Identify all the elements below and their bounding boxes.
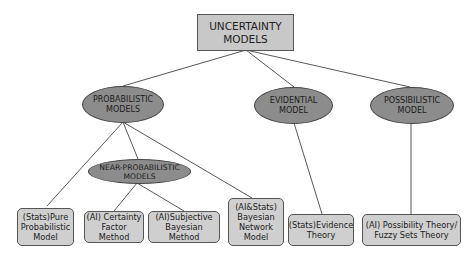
leaf-subjective-bayesian-method: (AI)Subjective Bayesian Method: [148, 211, 220, 243]
node-evidential-model: EVIDENTIAL MODEL: [254, 87, 333, 124]
leaf-bayesian-network-model: (AI&Stats) Bayesian Network Model: [228, 198, 284, 246]
leaf-possibility-fuzzy-sets-theory: (AI) Possibility Theory/ Fuzzy Sets Theo…: [362, 214, 461, 246]
edge-probabilistic-near: [123, 122, 138, 159]
leaf-evidence-theory: (Stats)Evidence Theory: [288, 214, 354, 246]
node-near-probabilistic-models: NEAR-PROBABILISTIC MODELS: [88, 159, 191, 184]
possibilistic-label: POSSIBILISTIC MODEL: [384, 96, 440, 116]
evidence-theory-label: (Stats)Evidence Theory: [289, 220, 354, 240]
leaf-certainty-factor-method: (AI) Certainty Factor Method: [84, 211, 144, 243]
near-probabilistic-label: NEAR-PROBABILISTIC MODELS: [99, 163, 180, 181]
root-label: UNCERTAINTY MODELS: [209, 20, 282, 46]
probabilistic-label: PROBABILISTIC MODELS: [93, 95, 153, 115]
node-probabilistic-models: PROBABILISTIC MODELS: [82, 86, 164, 123]
edge-root-probabilistic: [123, 50, 246, 86]
possibility-theory-label: (AI) Possibility Theory/ Fuzzy Sets Theo…: [366, 220, 457, 240]
node-possibilistic-model: POSSIBILISTIC MODEL: [370, 87, 454, 124]
certainty-factor-label: (AI) Certainty Factor Method: [85, 212, 143, 242]
root-node-uncertainty-models: UNCERTAINTY MODELS: [197, 14, 294, 51]
pure-probabilistic-label: (Stats)Pure Probabilistic Model: [21, 212, 70, 242]
edge-near-subjective: [137, 183, 184, 211]
bayesian-network-label: (AI&Stats) Bayesian Network Model: [235, 202, 277, 242]
subjective-bayesian-label: (AI)Subjective Bayesian Method: [149, 212, 219, 242]
edge-evidential-evidence: [294, 123, 322, 214]
evidential-label: EVIDENTIAL MODEL: [270, 96, 317, 116]
edge-near-certainty: [114, 183, 137, 211]
leaf-pure-probabilistic-model: (Stats)Pure Probabilistic Model: [17, 208, 74, 246]
